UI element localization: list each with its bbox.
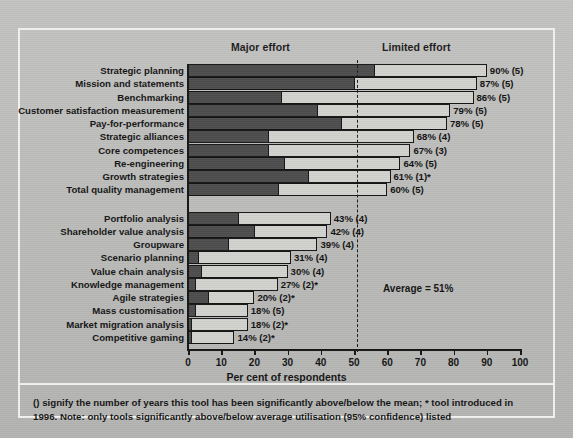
- bar-value-label: 87% (5): [480, 78, 514, 90]
- bar-segment-major-effort: [189, 92, 282, 103]
- bar-value-label: 20% (2)*: [257, 292, 294, 304]
- bar-row: 14% (2)*: [188, 331, 520, 344]
- x-axis-tick-label: 30: [282, 357, 293, 368]
- category-label: Competitive gaming: [2, 331, 184, 344]
- bar-value-label: 31% (4): [294, 252, 328, 264]
- bar-value-label: 61% (1)*: [394, 171, 431, 183]
- bar-row: 61% (1)*: [188, 170, 520, 183]
- stacked-bar: [188, 225, 327, 238]
- category-label: Benchmarking: [2, 91, 184, 104]
- bar-value-label: 78% (5): [450, 118, 484, 130]
- bar-row: 30% (4): [188, 265, 520, 278]
- footnote-divider: [20, 383, 553, 385]
- bar-segment-major-effort: [189, 171, 309, 182]
- bar-segment-major-effort: [189, 279, 196, 290]
- category-label: Strategic alliances: [2, 130, 184, 143]
- bar-value-label: 43% (4): [334, 213, 368, 225]
- bar-value-label: 27% (2)*: [281, 279, 318, 291]
- bar-row: 43% (4): [188, 212, 520, 225]
- bar-value-label: 60% (5): [390, 184, 424, 196]
- bar-segment-major-effort: [189, 319, 192, 330]
- bar-row: 79% (5): [188, 104, 520, 117]
- category-label: Portfolio analysis: [2, 212, 184, 225]
- category-label: Re-engineering: [2, 157, 184, 170]
- x-axis-tick-label: 40: [315, 357, 326, 368]
- bar-row: 42% (4): [188, 225, 520, 238]
- stacked-bar: [188, 304, 248, 317]
- x-axis-tick-label: 50: [348, 357, 359, 368]
- stacked-bar: [188, 278, 278, 291]
- stacked-bar: [188, 265, 288, 278]
- bar-segment-major-effort: [189, 266, 202, 277]
- bar-segment-major-effort: [189, 239, 229, 250]
- bar-row: 60% (5): [188, 183, 520, 196]
- bar-segment-major-effort: [189, 105, 318, 116]
- x-axis-tick: [387, 349, 389, 355]
- bar-value-label: 42% (4): [330, 226, 364, 238]
- stacked-bar: [188, 331, 234, 344]
- category-axis-labels: Strategic planningMission and statements…: [2, 64, 184, 349]
- stacked-bar: [188, 251, 291, 264]
- bar-segment-major-effort: [189, 184, 279, 195]
- x-axis-tick-label: 20: [249, 357, 260, 368]
- bar-row: 78% (5): [188, 117, 520, 130]
- bar-segment-major-effort: [189, 131, 269, 142]
- x-axis-tick: [487, 349, 489, 355]
- stacked-bar: [188, 238, 317, 251]
- bar-row: 27% (2)*: [188, 278, 520, 291]
- category-label: Growth strategies: [2, 170, 184, 183]
- category-label: Strategic planning: [2, 64, 184, 77]
- x-axis-tick: [321, 349, 323, 355]
- x-axis-tick-label: 80: [448, 357, 459, 368]
- figure-canvas: Major effort Limited effort Strategic pl…: [0, 0, 573, 438]
- average-annotation-label: Average = 51%: [383, 283, 454, 294]
- category-label: Customer satisfaction measurement: [2, 104, 184, 117]
- x-axis-title: Per cent of respondents: [0, 371, 573, 383]
- x-axis-tick: [420, 349, 422, 355]
- x-axis-tick-label: 60: [382, 357, 393, 368]
- bar-segment-major-effort: [189, 65, 375, 76]
- bar-value-label: 18% (5): [251, 305, 285, 317]
- bar-segment-major-effort: [189, 305, 196, 316]
- stacked-bar: [188, 130, 414, 143]
- x-axis-tick: [221, 349, 223, 355]
- plot-area: 90% (5)87% (5)86% (5)79% (5)78% (5)68% (…: [188, 64, 520, 349]
- stacked-bar: [188, 170, 391, 183]
- bar-row: 31% (4): [188, 251, 520, 264]
- x-axis-tick: [454, 349, 456, 355]
- bar-value-label: 64% (5): [403, 158, 437, 170]
- bar-row: 67% (3): [188, 144, 520, 157]
- bar-value-label: 86% (5): [477, 92, 511, 104]
- legend-label-limited-effort: Limited effort: [382, 41, 450, 53]
- bar-row: 18% (2)*: [188, 318, 520, 331]
- bar-segment-major-effort: [189, 78, 355, 89]
- stacked-bar: [188, 144, 410, 157]
- category-label: Scenario planning: [2, 251, 184, 264]
- bar-row: 68% (4): [188, 130, 520, 143]
- category-label: Core competences: [2, 144, 184, 157]
- x-axis-tick: [354, 349, 356, 355]
- x-axis-tick: [254, 349, 256, 355]
- x-axis-tick-label: 0: [185, 357, 191, 368]
- bar-row: 18% (5): [188, 304, 520, 317]
- chart-footnote: () signify the number of years this tool…: [33, 396, 538, 423]
- bar-row: 86% (5): [188, 91, 520, 104]
- bar-row: 39% (4): [188, 238, 520, 251]
- stacked-bar: [188, 91, 474, 104]
- bar-value-label: 30% (4): [291, 266, 325, 278]
- bar-segment-major-effort: [189, 158, 285, 169]
- category-label: Shareholder value analysis: [2, 225, 184, 238]
- category-label: Pay-for-performance: [2, 117, 184, 130]
- bar-segment-major-effort: [189, 213, 239, 224]
- bar-segment-major-effort: [189, 332, 192, 343]
- bar-value-label: 67% (3): [413, 145, 447, 157]
- category-label: Value chain analysis: [2, 265, 184, 278]
- x-axis-tick-label: 70: [415, 357, 426, 368]
- x-axis-tick: [288, 349, 290, 355]
- bar-value-label: 68% (4): [417, 131, 451, 143]
- stacked-bar: [188, 318, 248, 331]
- bar-segment-major-effort: [189, 252, 199, 263]
- bar-segment-major-effort: [189, 145, 269, 156]
- bar-value-label: 90% (5): [490, 65, 524, 77]
- legend-label-major-effort: Major effort: [231, 41, 290, 53]
